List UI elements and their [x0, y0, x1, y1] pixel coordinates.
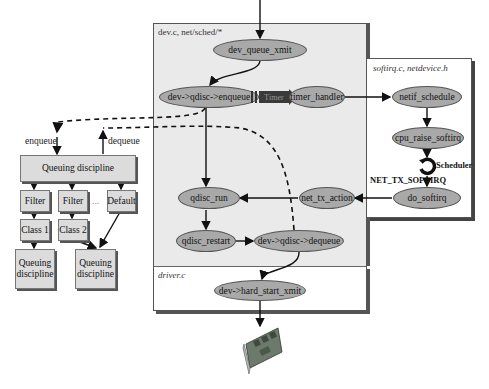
timer-label: Timer — [264, 93, 283, 102]
enqueue-label: enqueue — [25, 136, 57, 146]
dequeue-label: dequeue — [108, 136, 140, 146]
class-box-2: Class 2 — [58, 219, 88, 241]
network-card-icon — [240, 326, 284, 376]
node-net-tx-action: net_tx_action — [299, 187, 355, 209]
node-enqueue: dev->qdisc->enqueue — [159, 86, 259, 108]
scheduler-cycle-icon — [418, 156, 436, 176]
qdisc-root-box: Queuing discipline — [20, 155, 136, 182]
node-cpu-raise-softirq: cpu_raise_softirq — [392, 127, 464, 149]
filter-box-2: Filter — [58, 190, 88, 212]
node-do-softirq: do_softirq — [393, 187, 461, 209]
scheduler-label: Scheduler — [436, 160, 472, 170]
child-qdisc-box-1: Queuing discipline — [15, 249, 55, 289]
node-hard-start-xmit: dev->hard_start_xmit — [214, 280, 306, 301]
net-tx-softirq-label: NET_TX_SOFTIRQ — [370, 175, 446, 185]
panel-label-driver: driver.c — [158, 270, 185, 280]
node-qdisc-restart: qdisc_restart — [176, 230, 236, 252]
node-netif-schedule: netif_schedule — [392, 86, 462, 108]
panel-label-softirq: softirq.c, netdevice.h — [373, 63, 448, 73]
child-qdisc-box-2: Queuing discipline — [75, 249, 116, 289]
node-qdisc-run: qdisc_run — [178, 187, 240, 209]
filter-box-1: Filter — [20, 190, 50, 212]
filter-ellipsis: ... — [92, 196, 99, 206]
node-dequeue: dev->qdisc->dequeue — [254, 230, 344, 252]
panel-label-main: dev.c, net/sched/* — [158, 27, 222, 37]
node-dev-queue-xmit: dev_queue_xmit — [213, 39, 307, 61]
class-box-1: Class 1 — [20, 219, 50, 241]
node-timer-handler: timer_handler — [289, 86, 345, 108]
default-box: Default — [107, 190, 136, 212]
